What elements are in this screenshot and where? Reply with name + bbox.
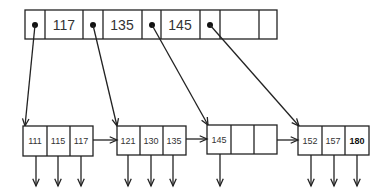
b-tree-diagram: 117135145 111115117121130135145152157180: [0, 0, 388, 195]
root-key: 117: [53, 17, 76, 33]
leaf-key: 111: [28, 136, 42, 146]
leaf-node: 152157180: [298, 126, 369, 155]
leaf-node: 145: [207, 125, 277, 154]
root-key: 145: [168, 17, 192, 33]
leaf-nodes: 111115117121130135145152157180: [23, 125, 369, 156]
leaf-record-pointers: [33, 154, 361, 186]
leaf-key: 135: [166, 136, 181, 146]
leaf-key: 157: [325, 136, 340, 146]
leaf-key: 121: [120, 136, 135, 146]
leaf-key: 145: [211, 135, 226, 145]
leaf-key: 152: [302, 136, 317, 146]
child-pointer-arrow: [93, 25, 117, 126]
leaf-key: 117: [74, 136, 88, 146]
leaf-node: 111115117: [23, 126, 93, 156]
child-pointer-arrow: [152, 25, 208, 125]
root-key: 135: [110, 17, 134, 33]
leaf-key: 130: [143, 136, 158, 146]
child-pointer-arrow: [210, 25, 299, 126]
leaf-key: 180: [349, 136, 364, 146]
child-pointer-arrow: [25, 25, 35, 126]
leaf-node: 121130135: [117, 126, 186, 155]
leaf-key: 115: [51, 136, 65, 146]
